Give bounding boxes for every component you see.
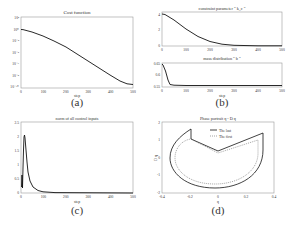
svg-text:400: 400 [255,89,261,93]
caption-c: (c) [57,204,97,216]
y-tick-labels: 420 [158,13,160,48]
svg-text:500: 500 [130,195,136,199]
svg-text:10⁻⁶: 10⁻⁶ [12,62,20,66]
the-first-curve [175,139,258,184]
svg-text:10⁰: 10⁰ [13,28,19,32]
the-last-curve [170,129,263,188]
caption-b: (b) [202,96,242,108]
svg-text:10⁻⁴: 10⁻⁴ [12,51,20,55]
kc-curve [162,14,282,46]
chart-title: Phase portrait q - D q [200,116,237,121]
svg-text:300: 300 [86,195,92,199]
svg-text:2: 2 [158,28,160,32]
svg-text:500: 500 [130,90,136,94]
svg-text:-1: -1 [157,173,160,177]
svg-text:100: 100 [183,48,189,52]
legend: The last The first [210,129,233,139]
svg-text:400: 400 [108,195,114,199]
panel-b-top: constraint parameter " k_c " 420 0100200… [158,6,285,52]
y-tick-labels: 10² 10⁰ 10⁻² 10⁻⁴ 10⁻⁶ 10⁻⁸ 10⁻¹⁰ [10,16,19,89]
svg-text:500: 500 [279,48,285,52]
svg-text:300: 300 [231,89,237,93]
svg-text:500: 500 [279,89,285,93]
x-tick-labels: -0.4-0.20 0.20.4 [159,195,276,199]
svg-text:0: 0 [20,90,22,94]
caption-d: (d) [198,204,238,216]
svg-text:0.6: 0.6 [156,73,161,77]
svg-text:300: 300 [86,90,92,94]
panel-c: norm of all control inputs 2.521.5 10.50… [15,116,136,204]
svg-text:1: 1 [158,138,160,142]
caption-a: (a) [57,96,97,108]
svg-text:4: 4 [158,13,160,17]
y-tick-labels: 2.521.5 10.50 [15,121,20,195]
svg-text:-0.4: -0.4 [159,195,165,199]
svg-text:400: 400 [108,90,114,94]
chart-title: mass distribution " b " [203,56,241,61]
b-curve [162,64,282,86]
svg-text:100: 100 [41,90,47,94]
svg-text:0: 0 [20,195,22,199]
panel-b-bottom: mass distribution " b " 0.650.60.55 0100… [154,56,285,98]
svg-text:10⁻²: 10⁻² [12,39,19,43]
norm-curve [22,135,134,193]
svg-text:10⁻¹⁰: 10⁻¹⁰ [10,85,19,89]
svg-text:1.5: 1.5 [15,149,20,153]
y-tick-labels: 0.650.60.55 [154,62,160,89]
svg-text:10²: 10² [14,16,19,20]
x-tick-labels: 0100200 300400500 [161,48,285,52]
x-tick-labels: 0100200 300400500 [20,195,136,199]
svg-text:10⁻⁸: 10⁻⁸ [12,74,20,78]
figure: Cost function 10² 10⁰ 10⁻² 10⁻⁴ 10⁻⁶ 10⁻… [0,0,296,230]
svg-text:-0.2: -0.2 [187,195,193,199]
legend-item-the-last: The last [219,129,232,133]
svg-text:2: 2 [158,121,160,125]
svg-text:0: 0 [161,89,163,93]
svg-text:100: 100 [41,195,47,199]
chart-title: Cost function [63,10,91,15]
svg-text:0.55: 0.55 [154,85,160,89]
chart-title: constraint parameter " k_c " [199,6,246,11]
panel-d: Phase portrait q - D q 210 -1-2 -0.4-0.2… [154,116,276,204]
svg-text:200: 200 [207,89,213,93]
panel-a: Cost function 10² 10⁰ 10⁻² 10⁻⁴ 10⁻⁶ 10⁻… [10,10,136,98]
svg-text:0.4: 0.4 [272,195,277,199]
svg-text:0.65: 0.65 [154,62,160,66]
x-axis-label: q [217,200,219,204]
legend-item-the-first: The first [219,135,233,139]
svg-text:0.2: 0.2 [244,195,249,199]
svg-text:2.5: 2.5 [15,121,20,125]
svg-text:300: 300 [231,48,237,52]
cost-curve [21,30,133,85]
svg-text:0: 0 [158,156,160,160]
x-tick-labels: 0100200 300400500 [161,89,285,93]
svg-text:1: 1 [17,163,19,167]
svg-text:100: 100 [183,89,189,93]
svg-text:200: 200 [63,90,69,94]
y-axis-label: D q [154,155,158,161]
svg-text:200: 200 [63,195,69,199]
svg-text:2: 2 [17,135,19,139]
chart-title: norm of all control inputs [56,116,99,121]
svg-text:0: 0 [158,44,160,48]
svg-text:400: 400 [255,48,261,52]
svg-text:0: 0 [161,48,163,52]
svg-text:200: 200 [207,48,213,52]
svg-text:0: 0 [17,191,19,195]
svg-text:0: 0 [217,195,219,199]
svg-text:0.5: 0.5 [15,177,20,181]
